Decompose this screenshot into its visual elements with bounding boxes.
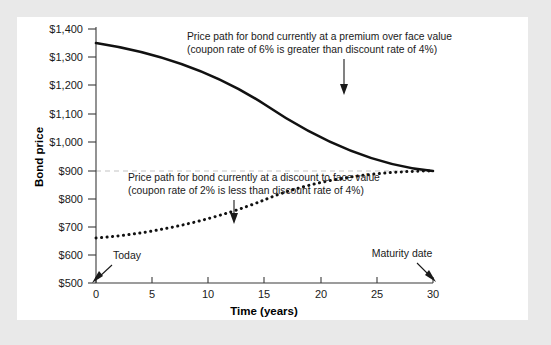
bond-price-chart: $1,400 $1,300 $1,200 $1,100 $1,000 $900 … — [17, 17, 528, 320]
y-axis-ticks — [88, 29, 96, 283]
today-marker-label: Today — [113, 249, 142, 261]
y-tick-label-1300: $1,300 — [49, 51, 83, 63]
y-tick-label-1000: $1,000 — [49, 136, 83, 148]
discount-annotation-line2: (coupon rate of 2% is less than discount… — [128, 185, 364, 196]
y-tick-label-1200: $1,200 — [49, 79, 83, 91]
x-tick-label-25: 25 — [371, 288, 383, 300]
chart-page: $1,400 $1,300 $1,200 $1,100 $1,000 $900 … — [0, 0, 551, 345]
premium-annotation: Price path for bond currently at a premi… — [187, 31, 452, 95]
premium-bond-curve — [96, 43, 433, 171]
x-tick-label-15: 15 — [258, 288, 270, 300]
x-tick-label-30: 30 — [427, 288, 439, 300]
y-tick-label-600: $600 — [59, 249, 83, 261]
y-tick-label-800: $800 — [59, 193, 83, 205]
maturity-marker-arrow-icon — [425, 270, 436, 282]
y-tick-label-1100: $1,100 — [49, 108, 83, 120]
x-tick-label-20: 20 — [315, 288, 327, 300]
today-marker: Today — [92, 249, 142, 283]
y-tick-label-1400: $1,400 — [49, 23, 83, 35]
x-axis-title: Time (years) — [230, 305, 298, 317]
x-tick-label-0: 0 — [93, 288, 99, 300]
y-tick-label-900: $900 — [59, 165, 83, 177]
maturity-marker: Maturity date — [372, 247, 436, 282]
today-marker-arrow-icon — [92, 271, 103, 283]
y-tick-label-500: $500 — [59, 277, 83, 289]
y-tick-label-700: $700 — [59, 221, 83, 233]
maturity-marker-label: Maturity date — [372, 247, 433, 259]
premium-annotation-line2: (coupon rate of 6% is greater than disco… — [187, 44, 437, 55]
discount-annotation-line1: Price path for bond currently at a disco… — [128, 172, 380, 183]
x-axis-ticks — [96, 277, 433, 283]
x-tick-label-10: 10 — [202, 288, 214, 300]
premium-annotation-arrow-icon — [340, 84, 348, 95]
discount-annotation: Price path for bond currently at a disco… — [128, 172, 380, 224]
chart-panel: $1,400 $1,300 $1,200 $1,100 $1,000 $900 … — [17, 17, 528, 320]
x-tick-label-5: 5 — [149, 288, 155, 300]
premium-annotation-line1: Price path for bond currently at a premi… — [187, 31, 452, 42]
discount-annotation-arrow-icon — [230, 213, 238, 224]
y-axis-title: Bond price — [33, 127, 45, 187]
